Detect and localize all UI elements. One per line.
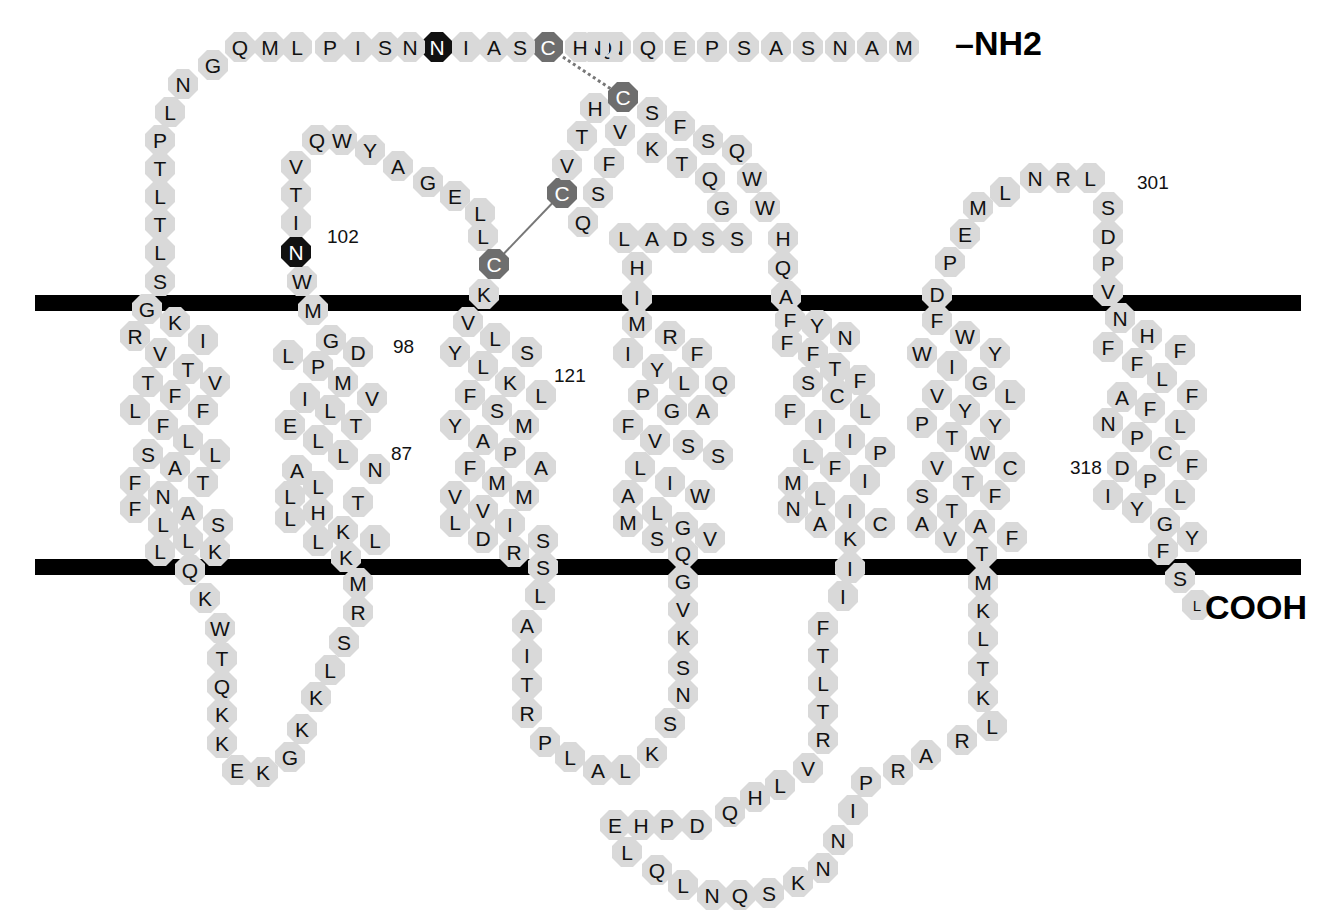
residue: K	[301, 682, 331, 712]
residue: K	[835, 523, 865, 553]
residue: K	[495, 367, 525, 397]
residue: L	[669, 367, 699, 397]
residue: M	[343, 568, 373, 598]
residue: L	[642, 497, 672, 527]
residue: L	[850, 395, 880, 425]
residue: M	[963, 192, 993, 222]
residue: G	[1150, 508, 1180, 538]
residue: H	[303, 497, 333, 527]
residue: P	[935, 247, 965, 277]
residue: F	[665, 111, 695, 141]
residue: L	[968, 623, 998, 653]
residue: R	[343, 597, 373, 627]
residue: K	[968, 595, 998, 625]
residue: A	[512, 610, 542, 640]
residue: I	[1093, 480, 1123, 510]
residue: F	[1093, 332, 1123, 362]
residue: T	[188, 467, 218, 497]
residue: N	[668, 679, 698, 709]
residue: S	[482, 395, 512, 425]
residue: W	[287, 266, 317, 296]
residue: L	[526, 380, 556, 410]
residue-number-label: 98	[393, 336, 414, 358]
residue: Q	[725, 880, 755, 910]
residue: F	[120, 493, 150, 523]
residue: A	[965, 510, 995, 540]
residue: L	[609, 223, 639, 253]
residue: R	[808, 724, 838, 754]
residue: Y	[980, 410, 1010, 440]
residue: Q	[705, 367, 735, 397]
residue: Y	[355, 135, 385, 165]
residue: T	[968, 653, 998, 683]
residue: G	[198, 50, 228, 80]
residue: P	[697, 32, 727, 62]
residue: V	[640, 425, 670, 455]
residue: N	[1020, 163, 1050, 193]
residue: R	[947, 725, 977, 755]
residue: L	[805, 482, 835, 512]
residue: K	[200, 536, 230, 566]
residue: L	[303, 425, 333, 455]
residue: K	[637, 738, 667, 768]
residue: P	[865, 437, 895, 467]
residue: L	[145, 237, 175, 267]
residue: A	[688, 395, 718, 425]
residue: P	[495, 438, 525, 468]
residue: S	[528, 525, 558, 555]
residue: M	[298, 295, 328, 325]
residue: S	[673, 430, 703, 460]
residue: I	[495, 509, 525, 539]
residue-number-label: 102	[327, 226, 359, 248]
residue: P	[145, 125, 175, 155]
residue: N	[778, 493, 808, 523]
residue: I	[188, 325, 218, 355]
residue: M	[509, 481, 539, 511]
residue: C	[1150, 437, 1180, 467]
residue: K	[160, 307, 190, 337]
residue: L	[173, 425, 203, 455]
residue: E	[950, 219, 980, 249]
residue: L	[440, 507, 470, 537]
residue: V	[793, 753, 823, 783]
residue: S	[793, 367, 823, 397]
residue: A	[805, 508, 835, 538]
residue: F	[455, 380, 485, 410]
residue: L	[282, 32, 312, 62]
residue: M	[509, 410, 539, 440]
c-terminus-label: COOH	[1205, 588, 1307, 627]
residue: V	[922, 380, 952, 410]
residue-number-label: 301	[1137, 172, 1169, 194]
residue: Y	[1177, 522, 1207, 552]
residue: I	[451, 32, 481, 62]
residue: I	[343, 32, 373, 62]
residue: G	[657, 395, 687, 425]
residue: A	[526, 452, 556, 482]
residue: K	[637, 133, 667, 163]
residue: N	[825, 32, 855, 62]
residue: E	[222, 755, 252, 785]
residue: S	[703, 440, 733, 470]
residue: K	[190, 583, 220, 613]
residue: P	[303, 351, 333, 381]
residue: S	[203, 509, 233, 539]
residue: L	[793, 440, 823, 470]
residue: S	[642, 523, 672, 553]
residue: I	[850, 465, 880, 495]
residue: L	[120, 395, 150, 425]
residue: Q	[642, 855, 672, 885]
residue: S	[693, 223, 723, 253]
residue: K	[207, 699, 237, 729]
residue: L	[155, 97, 185, 127]
residue: S	[133, 439, 163, 469]
residue: A	[637, 223, 667, 253]
residue: D	[1093, 221, 1123, 251]
residue: Y	[802, 310, 832, 340]
residue: T	[953, 467, 983, 497]
residue: L	[1147, 363, 1177, 393]
residue: L	[555, 742, 585, 772]
residue: P	[652, 810, 682, 840]
residue: L	[977, 711, 1007, 741]
residue: L	[1075, 163, 1105, 193]
residue-number-label: 87	[391, 443, 412, 465]
